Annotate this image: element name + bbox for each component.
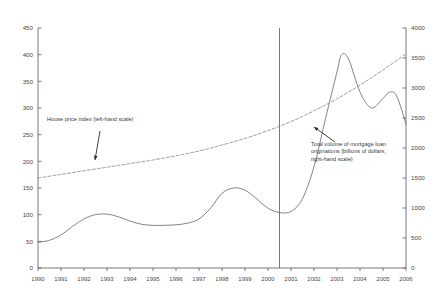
x-axis-tick-label: 1993 bbox=[100, 276, 114, 282]
right-axis-tick-label: 1000 bbox=[411, 204, 425, 211]
x-axis-tick-label: 2005 bbox=[376, 276, 390, 282]
x-axis-tick-label: 1997 bbox=[192, 276, 206, 282]
x-axis-tick-label: 2000 bbox=[261, 276, 275, 282]
line-chart: 050100150200250300350400450 050010001500… bbox=[0, 0, 444, 296]
annotation-text-line: originations (billions of dollars, bbox=[311, 148, 386, 154]
left-axis-tick-label: 50 bbox=[26, 238, 33, 245]
left-axis-tick-label: 100 bbox=[23, 211, 34, 218]
x-axis-tick-label: 1995 bbox=[146, 276, 160, 282]
x-axis-tick-label: 1996 bbox=[169, 276, 183, 282]
annotation-text-line: right-hand scale) bbox=[311, 156, 353, 162]
right-axis-tick-label: 0 bbox=[411, 264, 415, 271]
left-axis-tick-label: 200 bbox=[23, 158, 34, 165]
left-axis-tick-label: 150 bbox=[23, 184, 34, 191]
x-axis-tick-label: 1994 bbox=[123, 276, 137, 282]
x-axis-tick-label: 2002 bbox=[307, 276, 321, 282]
left-axis-tick-label: 300 bbox=[23, 104, 34, 111]
left-axis-tick-label: 400 bbox=[23, 51, 34, 58]
x-axis-tick-label: 1991 bbox=[54, 276, 68, 282]
right-axis-tick-label: 1500 bbox=[411, 174, 425, 181]
x-axis-tick-label: 2001 bbox=[284, 276, 298, 282]
right-axis-tick-label: 3500 bbox=[411, 54, 425, 61]
x-axis-tick-label: 2006 bbox=[399, 276, 413, 282]
right-axis-tick-label: 2500 bbox=[411, 114, 425, 121]
x-axis-tick-label: 1990 bbox=[31, 276, 45, 282]
left-axis-tick-label: 350 bbox=[23, 78, 34, 85]
right-axis-tick-label: 500 bbox=[411, 234, 422, 241]
x-axis-tick-label: 2003 bbox=[330, 276, 344, 282]
right-axis-tick-label: 2000 bbox=[411, 144, 425, 151]
left-axis-tick-label: 450 bbox=[23, 24, 34, 31]
annotation-text-line: Total volume of mortgage loan bbox=[311, 141, 386, 147]
right-axis-tick-label: 4000 bbox=[411, 24, 425, 31]
chart-container: 050100150200250300350400450 050010001500… bbox=[0, 0, 444, 296]
left-axis-tick-label: 0 bbox=[30, 264, 34, 271]
annotation-text-line: House price index (left-hand scale) bbox=[47, 116, 134, 122]
x-axis-tick-label: 1998 bbox=[215, 276, 229, 282]
left-axis-tick-label: 250 bbox=[23, 131, 34, 138]
x-axis-tick-label: 2004 bbox=[353, 276, 367, 282]
right-axis-tick-label: 3000 bbox=[411, 84, 425, 91]
x-axis-tick-label: 1999 bbox=[238, 276, 252, 282]
x-axis-tick-label: 1992 bbox=[77, 276, 91, 282]
